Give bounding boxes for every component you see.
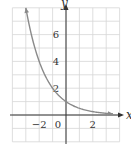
chart: x y −202246: [0, 0, 131, 154]
x-tick-label: −2: [32, 119, 47, 130]
y-tick-label: 4: [53, 56, 59, 67]
y-axis-label: y: [60, 0, 68, 10]
y-tick-label: 6: [53, 29, 59, 40]
curve-arrow-left-icon: [24, 8, 29, 13]
x-axis-arrow-icon: [118, 113, 124, 118]
x-axis-label: x: [126, 108, 131, 122]
x-tick-label: 0: [55, 119, 61, 130]
x-tick-label: 2: [90, 119, 96, 130]
